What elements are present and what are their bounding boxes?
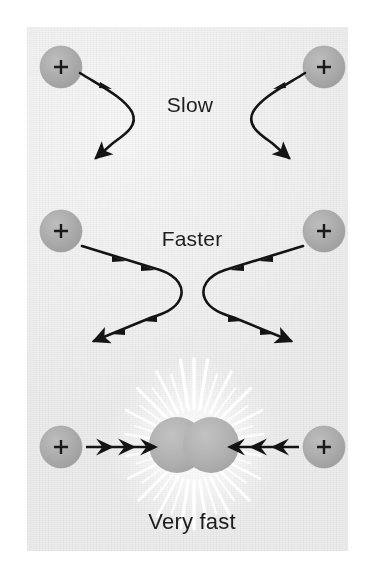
collision-proton-right: [183, 417, 239, 473]
particle-veryfast-left: [40, 426, 82, 468]
trajectory-marker: [99, 82, 112, 89]
particle-slow-left: [40, 46, 82, 88]
particle-faster-left: [40, 210, 82, 252]
label-slow: Slow: [167, 93, 213, 117]
row-very-fast: [40, 357, 345, 533]
trajectory-slow-right: [251, 73, 305, 158]
label-faster: Faster: [162, 227, 223, 251]
particle-veryfast-right: [303, 426, 345, 468]
label-very-fast: Very fast: [148, 509, 235, 535]
trajectory-faster-right: [203, 246, 303, 341]
collision-pair: [149, 417, 239, 473]
particle-faster-right: [303, 210, 345, 252]
trajectory-marker: [273, 82, 286, 89]
trajectory-slow-left: [80, 73, 134, 158]
figure-root: Slow Faster Very fast: [0, 0, 376, 573]
scattering-diagram: [0, 0, 376, 573]
particle-slow-right: [303, 46, 345, 88]
trajectory-faster-left: [82, 246, 182, 341]
